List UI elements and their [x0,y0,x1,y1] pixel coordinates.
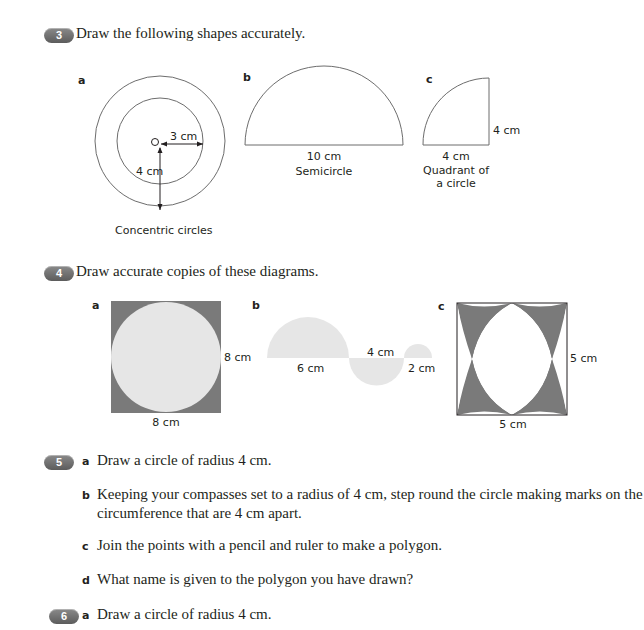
large-semicircle-label: 6 cm [297,362,324,375]
part-letter: a [82,455,89,468]
question-number-badge: 6 [49,609,79,624]
part-text: Keeping your compasses set to a radius o… [97,486,643,503]
medium-semicircle-label: 4 cm [367,346,394,359]
side-bottom-label: 5 cm [488,418,538,431]
question-number-badge: 5 [44,455,74,470]
small-semicircle-label: 2 cm [408,362,435,375]
radius-inner-label: 3 cm [170,130,197,143]
horizontal-side-label: 4 cm [431,150,481,163]
diameter-label: 10 cm [294,150,354,163]
side-bottom-label: 8 cm [141,416,191,429]
radius-outer-label: 4 cm [136,165,163,178]
figure-caption: Concentric circles [115,224,205,237]
part-label: c [426,73,433,86]
side-right-label: 5 cm [570,352,597,365]
part-letter: b [82,489,90,502]
figure-caption: a circle [421,177,491,190]
part-label: b [252,299,260,312]
part-letter: d [82,574,90,587]
figure-caption: Semicircle [289,165,359,178]
question-prompt: Draw accurate copies of these diagrams. [76,263,318,280]
part-text: circumference that are 4 cm apart. [97,505,302,522]
question-prompt: Draw the following shapes accurately. [76,25,305,42]
figure-caption: Quadrant of [421,164,491,177]
question-number-badge: 3 [44,28,74,43]
vertical-side-label: 4 cm [493,124,520,137]
side-right-label: 8 cm [224,351,251,364]
part-letter: a [82,609,89,622]
question-number-badge: 4 [44,266,74,281]
part-letter: c [82,540,89,553]
part-label: a [78,74,85,87]
part-text: What name is given to the polygon you ha… [97,571,413,588]
square-with-arcs-figure [0,0,1,1]
part-label: a [92,299,99,312]
part-text: Draw a circle of radius 4 cm. [97,606,272,623]
part-label: b [243,71,251,84]
part-text: Draw a circle of radius 4 cm. [97,452,272,469]
part-label: c [438,300,445,313]
part-text: Join the points with a pencil and ruler … [97,537,442,554]
